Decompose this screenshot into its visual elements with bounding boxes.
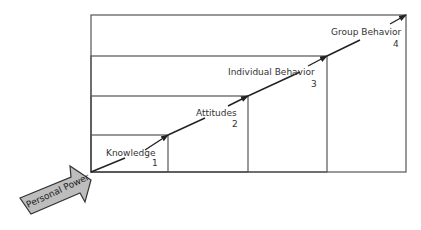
personal-power-arrow: Personal Power: [20, 166, 91, 214]
level-number-1: 1: [152, 158, 158, 168]
level-label-attitudes: Attitudes: [196, 108, 237, 118]
level-number-4: 4: [393, 39, 399, 49]
level-number-2: 2: [232, 119, 238, 129]
level-label-individual-behavior: Individual Behavior: [228, 67, 315, 77]
personal-power-diagram: Knowledge 1 Attitudes 2 Individual Behav…: [0, 0, 421, 230]
level-number-3: 3: [311, 79, 317, 89]
arrow-to-knowledge: [91, 158, 125, 172]
level-label-knowledge: Knowledge: [106, 148, 156, 158]
level-label-group-behavior: Group Behavior: [331, 27, 402, 37]
